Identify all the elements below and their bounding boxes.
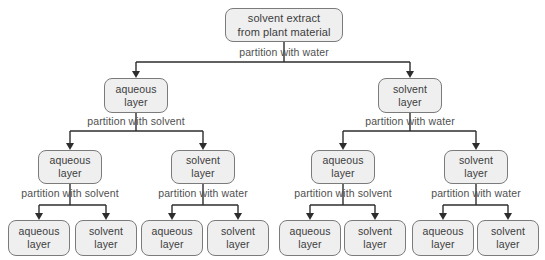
node-solvent-layer: solvent layer	[378, 78, 442, 113]
extraction-flowchart: partition with water partition with solv…	[0, 0, 545, 260]
node-solvent-layer: solvent layer	[207, 220, 269, 256]
node-aqueous-layer: aqueous layer	[141, 220, 203, 256]
node-solvent-layer: solvent layer	[75, 220, 137, 256]
node-aqueous-layer: aqueous layer	[104, 78, 168, 113]
node-aqueous-layer: aqueous layer	[38, 150, 102, 184]
node-aqueous-layer: aqueous layer	[311, 150, 375, 184]
node-solvent-layer: solvent layer	[477, 220, 539, 256]
node-solvent-layer: solvent layer	[171, 150, 235, 184]
node-solvent-extract: solvent extract from plant material	[225, 8, 343, 42]
node-aqueous-layer: aqueous layer	[279, 220, 341, 256]
node-aqueous-layer: aqueous layer	[412, 220, 474, 256]
node-solvent-layer: solvent layer	[344, 220, 406, 256]
node-solvent-layer: solvent layer	[444, 150, 508, 184]
node-aqueous-layer: aqueous layer	[8, 220, 70, 256]
